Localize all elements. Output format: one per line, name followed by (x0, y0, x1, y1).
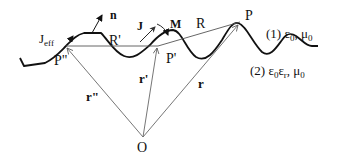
current-label: J (137, 19, 143, 33)
vector-r (143, 25, 238, 137)
effective-current-label: Jeff (39, 31, 54, 48)
normal-label: n (110, 8, 117, 22)
P-double-prime-label: P" (54, 53, 68, 68)
magnetization-label: M (170, 17, 181, 31)
normal-arrow (92, 15, 102, 33)
r-double-prime-label: r" (86, 89, 99, 104)
origin-label: O (137, 140, 147, 155)
medium-1-label: (1) ε0, μ0 (266, 26, 313, 43)
r-label: r (198, 76, 204, 91)
medium-2-label: (2) ε0εr, μ0 (250, 63, 305, 80)
P-prime-label: P' (166, 51, 176, 66)
R-prime-label: R' (109, 33, 121, 48)
P-label: P (245, 8, 253, 23)
R-label: R (196, 16, 206, 31)
vector-r-double-prime (67, 48, 143, 137)
diagram-canvas: n J M R R' Jeff P" P' P r' r" r O (1) ε0… (0, 0, 343, 156)
r-prime-label: r' (139, 71, 148, 86)
